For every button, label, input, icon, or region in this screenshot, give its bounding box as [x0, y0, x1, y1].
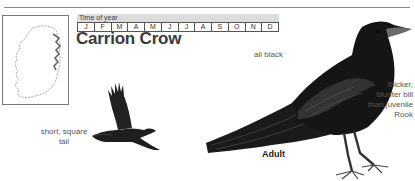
plumage-annotation: all black [254, 50, 283, 60]
bill-annotation: thicker, blunter bill than juvenile Rook [360, 80, 413, 120]
bill-annotation-line: blunter bill [360, 90, 413, 100]
species-title: Carrion Crow [76, 29, 181, 49]
bill-annotation-line: than juvenile [360, 100, 413, 110]
bill-annotation-line: thicker, [360, 80, 413, 90]
crow-in-flight-icon [88, 80, 168, 152]
distribution-map [2, 15, 69, 105]
top-divider [4, 7, 410, 8]
bill-annotation-line: Rook [360, 110, 413, 120]
tail-annotation: short, square tail [35, 127, 93, 147]
ireland-map-icon [3, 16, 70, 106]
age-label: Adult [262, 149, 285, 159]
